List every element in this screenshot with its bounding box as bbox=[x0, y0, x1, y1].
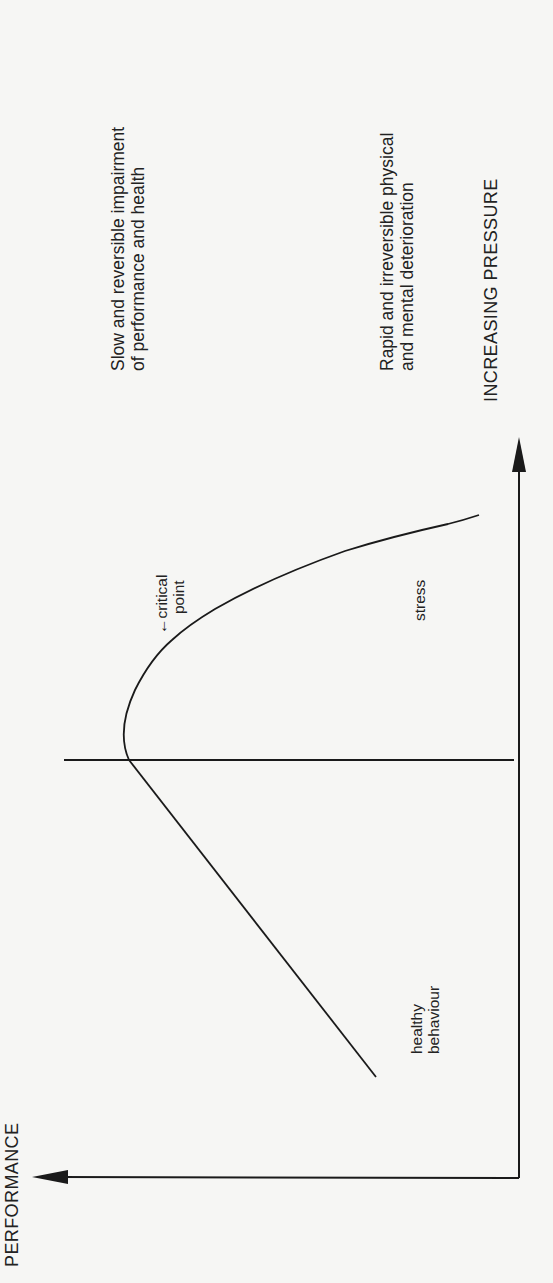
pressure-axis bbox=[512, 437, 526, 1178]
label-critical-point-line2: point bbox=[170, 575, 187, 634]
axis-title-pressure: INCREASING PRESSURE bbox=[481, 178, 501, 402]
stress-curve bbox=[124, 515, 479, 760]
label-healthy-line1: healthy bbox=[408, 986, 425, 1054]
label-stress-text: stress bbox=[411, 580, 428, 621]
label-slow-reversible: Slow and reversible impairment of perfor… bbox=[109, 127, 148, 371]
performance-axis bbox=[32, 1170, 519, 1184]
pressure-axis-arrow-icon bbox=[512, 437, 526, 472]
label-healthy-behaviour: healthy behaviour bbox=[408, 986, 443, 1054]
diagram-canvas: Slow and reversible impairment of perfor… bbox=[0, 0, 553, 1283]
label-slow-reversible-line1: Slow and reversible impairment bbox=[109, 127, 129, 371]
performance-axis-arrow-icon bbox=[32, 1170, 68, 1184]
label-healthy-line2: behaviour bbox=[425, 986, 442, 1054]
label-stress: stress bbox=[411, 580, 428, 621]
healthy-segment bbox=[129, 760, 376, 1077]
axis-title-performance: PERFORMANCE bbox=[2, 1123, 22, 1267]
label-rapid-irreversible-line2: and mental deterioration bbox=[398, 133, 418, 371]
axis-title-pressure-text: INCREASING PRESSURE bbox=[481, 178, 501, 402]
label-rapid-irreversible: Rapid and irreversible physical and ment… bbox=[378, 133, 417, 371]
axis-title-performance-text: PERFORMANCE bbox=[2, 1123, 22, 1267]
label-slow-reversible-line2: of performance and health bbox=[129, 127, 149, 371]
label-critical-point-line1: ←critical bbox=[153, 575, 170, 634]
label-rapid-irreversible-line1: Rapid and irreversible physical bbox=[378, 133, 398, 371]
label-critical-point: ←critical point bbox=[153, 575, 188, 634]
diagram-graphics bbox=[0, 0, 553, 1283]
